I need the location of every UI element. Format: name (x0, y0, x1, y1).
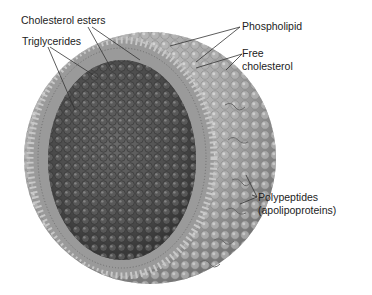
label-phospholipid: Phospholipid (242, 20, 302, 32)
label-polypeptides-line1: Polypeptides (258, 191, 318, 203)
label-free-cholesterol-line2: cholesterol (242, 60, 293, 72)
label-triglycerides: Triglycerides (22, 35, 81, 47)
lipoprotein-diagram: Cholesterol esters Triglycerides Phospho… (0, 0, 372, 295)
label-free-cholesterol-line1: Free (242, 47, 264, 59)
label-polypeptides-line2: (apolipoproteins) (258, 204, 336, 216)
triglyceride-core (48, 60, 196, 260)
label-cholesterol-esters: Cholesterol esters (21, 14, 106, 26)
